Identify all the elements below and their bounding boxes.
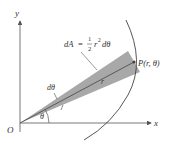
origin-label: O (7, 125, 14, 135)
area-wedge (20, 51, 140, 123)
y-axis-label: y (14, 8, 19, 18)
x-axis-label: x (153, 118, 158, 128)
formula-lhs: dA (64, 39, 74, 49)
point-label: P(r, θ) (137, 58, 160, 68)
radius-label: r (101, 77, 104, 86)
radius-line (20, 62, 134, 123)
formula-frac-den: 2 (88, 45, 91, 52)
formula-frac-num: 1 (88, 35, 91, 42)
dtheta-tick-upper (54, 93, 57, 99)
point-p (132, 60, 135, 63)
theta-label: θ (40, 112, 44, 121)
formula-dtheta: dθ (102, 39, 110, 49)
formula-equals: = (78, 39, 83, 49)
polar-area-diagram: y x O dA = 1 2 r 2 dθ P(r, θ) r dθ θ (0, 0, 181, 142)
formula-exponent: 2 (98, 37, 101, 43)
dtheta-label: dθ (47, 83, 55, 92)
dtheta-tick-lower (61, 105, 63, 110)
formula-leader (81, 52, 97, 70)
